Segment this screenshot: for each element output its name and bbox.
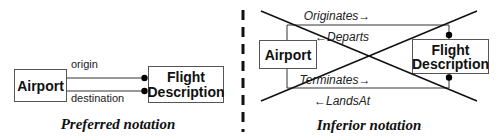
preferred-notation-panel: Airport Flight Description origin destin… (15, 58, 225, 132)
origin-many-dot-icon (141, 75, 147, 81)
lands-at-label: ←LandsAt (314, 94, 371, 108)
preferred-notation-caption: Preferred notation (61, 116, 176, 132)
flight-description-label-line1: Flight (167, 69, 205, 85)
airport-entity-label: Airport (17, 78, 64, 94)
inferior-notation-caption: Inferior notation (316, 117, 422, 133)
destination-many-dot-icon (141, 88, 147, 94)
originates-label: Originates→ (304, 9, 371, 23)
airport-entity-label-inferior: Airport (265, 47, 312, 63)
flight-description-label-line2-inferior: Description (412, 56, 489, 72)
airport-entity: Airport (15, 70, 67, 102)
flight-description-entity: Flight Description (147, 67, 224, 103)
originates-many-dot-icon (446, 32, 452, 38)
diagram-canvas: Airport Flight Description origin destin… (0, 0, 503, 140)
destination-role-label: destination (71, 92, 124, 104)
inferior-notation-panel: Airport Flight Description Originates→ ←… (260, 9, 490, 133)
flight-description-entity-inferior: Flight Description (412, 40, 489, 74)
origin-role-label: origin (71, 58, 98, 70)
terminates-many-dot-icon (446, 74, 452, 80)
flight-description-label-line2: Description (147, 84, 224, 100)
airport-entity-inferior: Airport (260, 41, 317, 69)
